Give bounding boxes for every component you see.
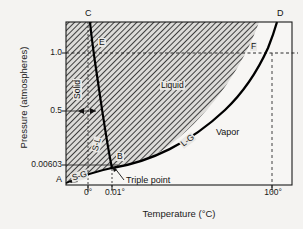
region-label-solid: Solid: [73, 79, 82, 100]
point-label-a: A: [56, 175, 62, 184]
point-label-c: C: [85, 9, 92, 18]
region-label-liquid: Liquid: [160, 81, 185, 90]
plot-canvas: [0, 0, 303, 229]
phase-diagram-figure: Pressure (atmospheres) Temperature (°C) …: [0, 0, 303, 229]
point-label-e: E: [98, 38, 106, 47]
region-label-vapor: Vapor: [216, 128, 239, 137]
point-label-b: B: [116, 152, 124, 161]
point-label-f: F: [250, 42, 257, 51]
triple-point-annotation: Triple point: [126, 176, 170, 185]
point-label-d: D: [277, 9, 284, 18]
